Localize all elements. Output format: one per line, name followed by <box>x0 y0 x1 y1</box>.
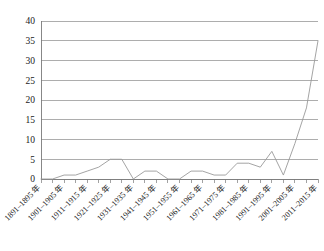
x-axis-labels: 1891–1895 年1901–1905 年1911–1915 年1921–19… <box>2 182 319 222</box>
y-tick-label: 10 <box>26 135 36 145</box>
y-tick-label: 15 <box>26 115 36 125</box>
y-tick-label: 25 <box>26 76 36 86</box>
y-tick-label: 20 <box>26 95 36 105</box>
data-series-line <box>41 41 318 179</box>
y-tick-label: 40 <box>26 16 36 26</box>
y-tick-label: 35 <box>26 36 36 46</box>
gridlines <box>41 21 318 179</box>
x-tickmarks <box>41 179 318 183</box>
line-chart: 05101520253035401891–1895 年1901–1905 年19… <box>0 0 324 251</box>
y-tick-label: 30 <box>26 56 36 66</box>
y-axis-labels: 0510152025303540 <box>26 16 36 184</box>
chart-container: 05101520253035401891–1895 年1901–1905 年19… <box>0 0 324 251</box>
y-tick-label: 5 <box>30 155 35 165</box>
y-tick-label: 0 <box>30 174 35 184</box>
